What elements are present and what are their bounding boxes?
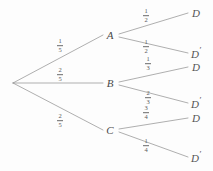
edge-label-root-C: 2 5 [57,113,63,129]
leaf-text: D [191,152,199,164]
fraction-numerator: 2 [57,67,62,74]
fraction-numerator: 1 [57,38,62,45]
branch-A-to-Dp [119,37,188,53]
fraction-denominator: 2 [143,17,148,24]
fraction-denominator: 5 [57,76,62,83]
fraction-denominator: 4 [143,114,148,121]
node-label-C: C [106,125,113,136]
edge-label-A-D: 1 2 [143,8,149,24]
fraction-numerator: 2 [57,113,62,120]
leaf-text: D [192,112,200,124]
fraction-numerator: 1 [143,138,148,145]
leaf-text: D [192,61,200,73]
branch-B-to-Dp [119,85,188,103]
leaf-label-C-D: D [192,113,200,124]
fraction-numerator: 3 [143,105,148,112]
branch-C-to-Dp [119,132,188,157]
leaf-label-A-Dprime: D′ [191,46,201,60]
leaf-label-A-D: D [192,8,200,19]
edge-label-root-B: 2 5 [57,67,63,83]
branch-A-to-D [119,13,188,34]
branch-B-to-D [119,67,188,82]
fraction-numerator: 1 [143,39,148,46]
edge-label-C-D: 3 4 [143,105,149,121]
edge-label-C-Dprime: 1 4 [143,138,149,154]
fraction-denominator: 5 [57,47,62,54]
edge-label-root-A: 1 5 [57,38,63,54]
fraction-denominator: 2 [143,48,148,55]
leaf-label-C-Dprime: D′ [191,150,201,164]
prime-mark: ′ [199,95,201,105]
edge-label-A-Dprime: 1 2 [143,39,149,55]
fraction-denominator: 3 [145,65,150,72]
leaf-label-B-Dprime: D′ [191,96,201,110]
probability-tree-figure: A B C D D′ D D′ D D′ 1 5 2 5 2 5 1 2 1 [0,0,213,171]
node-label-A: A [107,30,114,41]
fraction-numerator: 1 [143,8,148,15]
leaf-text: D [191,48,199,60]
prime-mark: ′ [199,45,201,55]
edge-label-B-D: 1 3 [145,56,151,72]
fraction-numerator: 2 [145,90,150,97]
leaf-label-B-D: D [192,62,200,73]
branch-C-to-D [119,118,188,129]
leaf-text: D [191,98,199,110]
node-label-B: B [107,78,114,89]
fraction-denominator: 4 [143,147,148,154]
fraction-numerator: 1 [145,56,150,63]
fraction-denominator: 5 [57,122,62,129]
leaf-text: D [192,7,200,19]
prime-mark: ′ [199,149,201,159]
